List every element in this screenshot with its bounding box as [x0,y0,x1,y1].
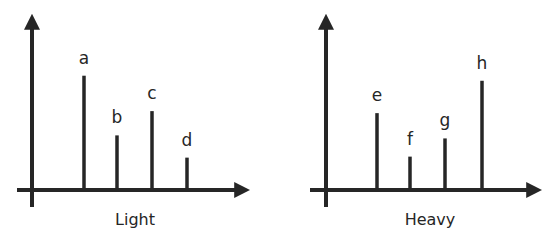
x-axis-label: Heavy [405,210,456,229]
bar-label-c: c [147,83,156,103]
heavy-chart: efghHeavy [310,21,535,229]
bar-label-e: e [372,85,382,105]
bar-label-d: d [182,130,193,150]
light-chart: abcdLight [17,21,243,229]
x-axis-label: Light [115,210,155,229]
bar-label-g: g [440,110,451,130]
bar-label-b: b [112,107,123,127]
diagram-canvas: abcdLight efghHeavy [0,0,556,247]
bar-label-a: a [79,48,89,68]
bar-label-f: f [407,129,414,149]
bar-label-h: h [477,53,488,73]
